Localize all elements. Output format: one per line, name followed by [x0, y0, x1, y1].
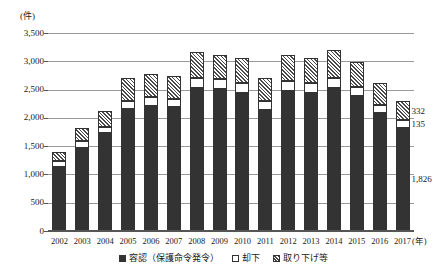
bar-segment-withdrawn[interactable]: [327, 50, 341, 78]
bar-segment-granted[interactable]: [235, 93, 249, 231]
y-axis-tick-label: 0: [4, 227, 44, 236]
x-axis-tick-label: 2017: [391, 236, 414, 246]
bar-segment-dismissed[interactable]: [52, 161, 66, 167]
bar-segment-withdrawn[interactable]: [396, 101, 410, 120]
bar-group[interactable]: [373, 33, 387, 231]
bar-segment-granted[interactable]: [281, 91, 295, 231]
bar-segment-granted[interactable]: [373, 113, 387, 231]
bar-segment-withdrawn[interactable]: [167, 76, 181, 99]
legend-item[interactable]: 却下: [232, 253, 260, 264]
value-label-却下: 135: [412, 119, 426, 129]
legend-label: 容認（保護命令発令）: [129, 253, 219, 264]
bar-group[interactable]: [304, 33, 318, 231]
bar-segment-dismissed[interactable]: [121, 101, 135, 109]
bar-group[interactable]: [121, 33, 135, 231]
bar-segment-granted[interactable]: [52, 167, 66, 231]
legend-item[interactable]: 取り下げ等: [273, 253, 328, 264]
bar-segment-granted[interactable]: [327, 88, 341, 231]
bar-segment-dismissed[interactable]: [327, 78, 341, 88]
bar-group[interactable]: [281, 33, 295, 231]
bar-group[interactable]: [327, 33, 341, 231]
bar-segment-withdrawn[interactable]: [52, 152, 66, 161]
bar-segment-withdrawn[interactable]: [350, 62, 364, 86]
bar-segment-granted[interactable]: [98, 133, 112, 231]
legend-swatch-withdrawn: [273, 255, 280, 262]
y-axis-tick-label: 2,000: [4, 113, 44, 122]
bar-segment-dismissed[interactable]: [373, 105, 387, 113]
bar-segment-withdrawn[interactable]: [373, 83, 387, 105]
bar-group[interactable]: [75, 33, 89, 231]
bar-segment-dismissed[interactable]: [167, 99, 181, 108]
legend-item[interactable]: 容認（保護命令発令）: [119, 253, 219, 264]
bar-group[interactable]: [396, 33, 410, 231]
bar-segment-granted[interactable]: [121, 109, 135, 231]
y-axis-tick-label: 1,000: [4, 170, 44, 179]
legend-label: 取り下げ等: [283, 253, 328, 264]
x-axis-tick-label: 2005: [117, 236, 140, 246]
bar-segment-dismissed[interactable]: [396, 120, 410, 128]
bar-segment-withdrawn[interactable]: [121, 78, 135, 102]
x-axis-tick-label: 2007: [162, 236, 185, 246]
bar-segment-withdrawn[interactable]: [144, 74, 158, 98]
bar-group[interactable]: [167, 33, 181, 231]
bar-segment-dismissed[interactable]: [190, 78, 204, 88]
value-label-取り下げ等: 332: [412, 106, 426, 116]
y-axis-tick-label: 1,500: [4, 142, 44, 151]
x-axis-tick-label: 2003: [71, 236, 94, 246]
bar-segment-dismissed[interactable]: [281, 81, 295, 91]
x-axis-tick-label: 2004: [94, 236, 117, 246]
bar-group[interactable]: [98, 33, 112, 231]
chart-legend: 容認（保護命令発令）却下取り下げ等: [0, 253, 447, 264]
bar-segment-granted[interactable]: [144, 106, 158, 231]
bar-group[interactable]: [235, 33, 249, 231]
bar-segment-dismissed[interactable]: [304, 83, 318, 93]
bar-segment-withdrawn[interactable]: [98, 111, 112, 127]
legend-label: 却下: [242, 253, 260, 264]
x-axis-unit-label: (年): [412, 236, 427, 246]
x-axis-tick-labels: 2002200320042005200620072008200920102011…: [48, 236, 414, 250]
bar-segment-withdrawn[interactable]: [304, 58, 318, 82]
bar-segment-granted[interactable]: [213, 89, 227, 232]
bar-segment-withdrawn[interactable]: [213, 55, 227, 79]
bar-segment-dismissed[interactable]: [258, 101, 272, 110]
bar-group[interactable]: [52, 33, 66, 231]
bar-segment-granted[interactable]: [350, 96, 364, 231]
x-axis-tick-label: 2015: [345, 236, 368, 246]
bar-segment-withdrawn[interactable]: [190, 52, 204, 78]
x-axis-tick-label: 2002: [48, 236, 71, 246]
bar-segment-withdrawn[interactable]: [258, 78, 272, 100]
bar-segment-dismissed[interactable]: [98, 127, 112, 133]
y-axis-tick-label: 500: [4, 198, 44, 207]
bar-segment-withdrawn[interactable]: [281, 55, 295, 82]
bar-segment-dismissed[interactable]: [213, 79, 227, 89]
bar-group[interactable]: [190, 33, 204, 231]
bar-segment-granted[interactable]: [396, 128, 410, 231]
x-axis-tick-label: 2016: [368, 236, 391, 246]
x-axis-tick-label: 2010: [231, 236, 254, 246]
y-axis-tick-label: 3,000: [4, 57, 44, 66]
bar-segment-granted[interactable]: [167, 107, 181, 231]
bar-group[interactable]: [350, 33, 364, 231]
bar-group[interactable]: [144, 33, 158, 231]
y-axis-unit-label: (件): [20, 11, 35, 21]
bar-segment-granted[interactable]: [258, 110, 272, 231]
bar-group[interactable]: [213, 33, 227, 231]
bar-segment-dismissed[interactable]: [350, 87, 364, 96]
x-axis-tick-label: 2012: [277, 236, 300, 246]
bar-segment-withdrawn[interactable]: [75, 128, 89, 141]
x-axis-tick-label: 2006: [140, 236, 163, 246]
plot-area: [48, 33, 414, 231]
bar-segment-granted[interactable]: [304, 93, 318, 231]
bar-segment-dismissed[interactable]: [144, 97, 158, 105]
bar-segment-granted[interactable]: [190, 88, 204, 231]
y-axis-tick-label: 3,500: [4, 29, 44, 38]
bar-segment-dismissed[interactable]: [235, 83, 249, 93]
legend-swatch-granted: [119, 255, 126, 262]
bar-segment-dismissed[interactable]: [75, 141, 89, 148]
x-axis-tick-label: 2011: [254, 236, 277, 246]
x-axis-tick-label: 2009: [208, 236, 231, 246]
y-axis-tick-label: 2,500: [4, 85, 44, 94]
bar-segment-granted[interactable]: [75, 148, 89, 231]
bar-segment-withdrawn[interactable]: [235, 58, 249, 83]
bar-group[interactable]: [258, 33, 272, 231]
